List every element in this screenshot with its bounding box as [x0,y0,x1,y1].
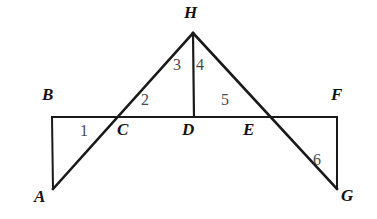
vertex-label-F: F [331,86,342,103]
segments-group [52,33,337,189]
angle-label-2: 2 [141,92,149,108]
angle-label-6: 6 [313,152,321,168]
segment-BA [52,117,53,189]
vertex-label-E: E [243,121,254,138]
angle-label-5: 5 [221,92,229,108]
angle-label-1: 1 [80,123,88,139]
segment-AH [53,33,193,189]
vertex-label-H: H [184,4,197,21]
vertex-label-A: A [34,188,45,205]
geometry-canvas [0,0,377,219]
vertex-label-B: B [42,86,53,103]
angle-label-3: 3 [173,57,181,73]
geometry-figure: A B C D E F G H 1 2 3 4 5 6 [0,0,377,219]
segment-HD [193,33,194,117]
vertex-label-D: D [182,121,194,138]
vertex-label-C: C [117,121,128,138]
angle-label-4: 4 [196,57,204,73]
vertex-label-G: G [341,187,353,204]
